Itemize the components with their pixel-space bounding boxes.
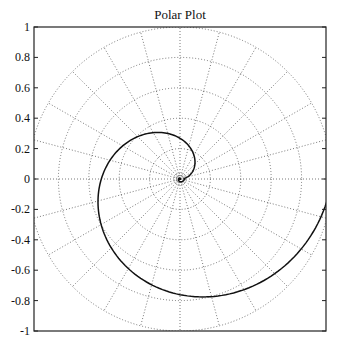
- grid-spoke: [180, 179, 287, 286]
- y-tick-label: 1: [24, 20, 30, 34]
- grid-spoke: [180, 47, 256, 179]
- y-tick-label: -0.6: [11, 263, 30, 277]
- grid-spoke: [48, 179, 180, 255]
- grid-spoke: [180, 179, 256, 311]
- grid-spoke: [180, 72, 287, 179]
- chart-title: Polar Plot: [154, 7, 206, 22]
- grid-spoke: [33, 140, 180, 179]
- spiral-curve: [98, 132, 332, 297]
- polar-plot: Polar Plot -1-0.8-0.6-0.4-0.200.20.40.60…: [0, 0, 340, 345]
- grid-spoke: [33, 179, 180, 218]
- y-tick-label: -0.4: [11, 233, 30, 247]
- grid-spoke: [48, 103, 180, 179]
- grid-spoke: [180, 103, 312, 179]
- y-tick-label: -1: [20, 324, 30, 338]
- grid-spoke: [73, 179, 180, 286]
- grid-spoke: [104, 47, 180, 179]
- y-tick-label: 0.8: [15, 50, 30, 64]
- grid-spoke: [104, 179, 180, 311]
- grid-spoke: [180, 179, 312, 255]
- y-tick-label: -0.8: [11, 294, 30, 308]
- spiral-line: [98, 132, 332, 297]
- grid-spoke: [73, 72, 180, 179]
- y-tick-label: -0.2: [11, 202, 30, 216]
- grid-spoke: [180, 32, 219, 179]
- grid-spoke: [141, 32, 180, 179]
- grid-spoke: [180, 179, 327, 218]
- grid-spoke: [141, 179, 180, 326]
- grid-spoke: [180, 140, 327, 179]
- grid-spoke: [180, 179, 219, 326]
- y-tick-label: 0: [24, 172, 30, 186]
- y-tick-label: 0.6: [15, 81, 30, 95]
- y-tick-label: 0.2: [15, 142, 30, 156]
- y-tick-label: 0.4: [15, 111, 30, 125]
